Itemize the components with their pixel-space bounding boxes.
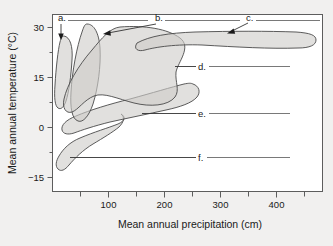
callout-label-a: a. (58, 12, 66, 23)
x-tick-label-300: 300 (213, 199, 229, 210)
climate-envelope-figure: 30 15 0 −15 Mean annual temperature (°C)… (0, 0, 333, 246)
x-tick-label-100: 100 (101, 199, 117, 210)
y-tick-label-0: 0 (39, 122, 44, 133)
y-axis-title: Mean annual temperature (°C) (6, 32, 18, 174)
callout-label-d: d. (198, 61, 206, 72)
y-tick-label-30: 30 (33, 22, 44, 33)
callout-label-f: f. (198, 152, 203, 163)
y-tick-label-15: 15 (33, 72, 44, 83)
x-axis-title: Mean annual precipitation (cm) (118, 218, 262, 230)
x-tick-label-200: 200 (157, 199, 173, 210)
callout-label-b: b. (155, 12, 163, 23)
callout-label-c: c. (246, 12, 253, 23)
figure-page: 30 15 0 −15 Mean annual temperature (°C)… (0, 0, 333, 246)
callout-label-e: e. (198, 108, 206, 119)
y-tick-label-neg15: −15 (28, 172, 44, 183)
x-tick-label-400: 400 (269, 199, 285, 210)
